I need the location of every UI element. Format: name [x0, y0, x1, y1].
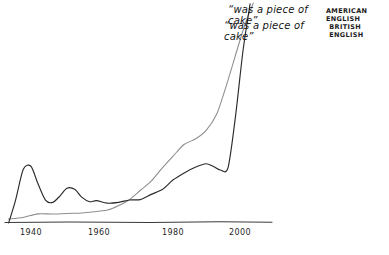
legend-corpus-british: BRITISH ENGLISH [329, 23, 389, 39]
plot-area [8, 3, 253, 223]
x-tick-1940: 1940 [20, 228, 42, 237]
x-axis-line [5, 222, 272, 223]
x-tick-1980: 1980 [162, 228, 184, 237]
legend-item-british-english: “was a piece of cake” BRITISH ENGLISH [224, 20, 389, 42]
x-tick-2000: 2000 [229, 228, 251, 237]
series-line-american-english [8, 3, 253, 219]
series-line-british-english [9, 4, 250, 223]
x-axis [5, 222, 272, 223]
legend-phrase-british: “was a piece of cake” [224, 20, 322, 42]
chart-page: 1940 1960 1980 2000 “was a piece of cake… [0, 0, 389, 255]
x-tick-1960: 1960 [88, 228, 110, 237]
